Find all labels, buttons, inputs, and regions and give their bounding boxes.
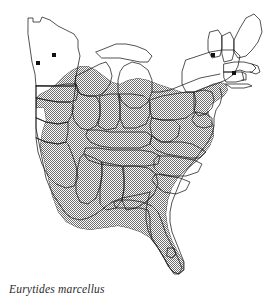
record-dot-vermont <box>211 53 215 57</box>
record-dot-minnesota-central <box>52 53 56 57</box>
map-svg <box>0 0 272 280</box>
record-dot-massachusetts <box>232 71 236 75</box>
record-dot-minnesota-west <box>36 61 40 65</box>
species-caption: Eurytides marcellus <box>9 283 259 296</box>
isolated-record-markers <box>36 53 236 75</box>
range-map-figure: Eurytides marcellus <box>0 0 272 296</box>
map-canvas <box>0 0 272 280</box>
